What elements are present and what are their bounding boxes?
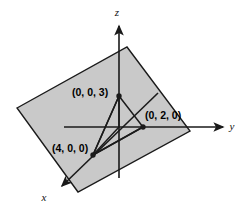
point-label-x-intercept: (4, 0, 0) [52,142,88,154]
point-y-intercept [140,124,145,129]
point-label-y-intercept: (0, 2, 0) [145,109,181,121]
point-x-intercept [90,152,95,157]
z-axis-label: z [114,6,120,18]
x-axis-label: x [41,191,47,203]
point-label-z-intercept: (0, 0, 3) [72,86,108,98]
y-axis-label: y [229,120,235,132]
figure-container: z y x (0, 0, 3) (0, 2, 0) (4, 0, 0) [0,0,246,211]
point-z-intercept [116,93,121,98]
coordinate-system-diagram: z y x (0, 0, 3) (0, 2, 0) (4, 0, 0) [0,0,246,211]
